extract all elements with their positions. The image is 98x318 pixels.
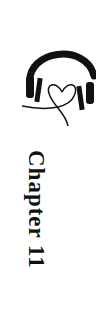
headphones-heart-icon [22,36,96,126]
chapter-title: Chapter 11 [23,150,49,269]
